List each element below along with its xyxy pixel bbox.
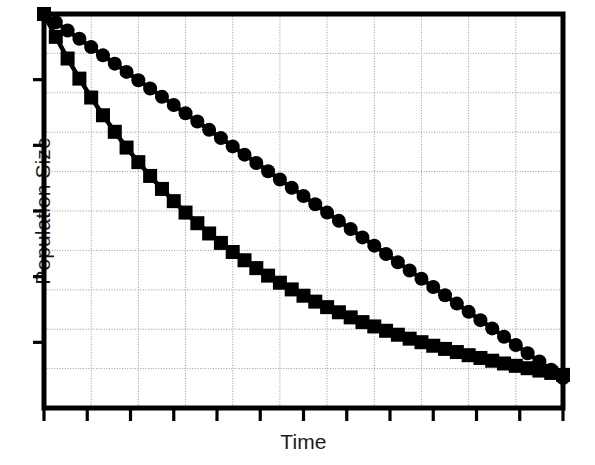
data-point-circle	[509, 338, 523, 352]
data-point-circle	[320, 206, 334, 220]
data-point-circle	[426, 280, 440, 294]
data-point-circle	[273, 172, 287, 186]
data-point-circle	[190, 115, 204, 129]
data-point-circle	[497, 330, 511, 344]
data-point-circle	[379, 247, 393, 261]
data-point-circle	[84, 40, 98, 54]
data-point-circle	[96, 48, 110, 62]
data-point-circle	[438, 288, 452, 302]
data-point-square	[72, 72, 86, 86]
data-point-circle	[521, 346, 535, 360]
data-point-square	[556, 368, 570, 382]
data-point-square	[96, 108, 110, 122]
data-point-circle	[261, 164, 275, 178]
data-point-circle	[414, 272, 428, 286]
data-point-square	[49, 30, 63, 44]
data-point-circle	[249, 156, 263, 170]
data-point-square	[37, 7, 51, 21]
data-point-circle	[131, 73, 145, 87]
chart-figure: Population Size Time	[0, 0, 595, 465]
data-point-circle	[355, 230, 369, 244]
data-point-circle	[462, 305, 476, 319]
data-point-circle	[167, 98, 181, 112]
data-point-circle	[367, 239, 381, 253]
data-point-circle	[473, 313, 487, 327]
data-point-circle	[120, 65, 134, 79]
data-point-circle	[179, 106, 193, 120]
data-point-circle	[450, 297, 464, 311]
data-point-circle	[108, 57, 122, 71]
data-point-circle	[485, 321, 499, 335]
data-point-circle	[72, 32, 86, 46]
data-series-layer	[37, 7, 570, 385]
plot-area	[0, 0, 595, 465]
data-point-square	[131, 155, 145, 169]
data-point-square	[61, 52, 75, 66]
data-point-circle	[155, 90, 169, 104]
data-point-circle	[344, 222, 358, 236]
data-point-square	[84, 91, 98, 105]
data-point-square	[143, 169, 157, 183]
data-point-circle	[391, 255, 405, 269]
data-point-circle	[332, 214, 346, 228]
data-point-circle	[403, 263, 417, 277]
data-point-circle	[238, 148, 252, 162]
data-point-circle	[214, 131, 228, 145]
data-point-circle	[308, 197, 322, 211]
data-point-circle	[285, 181, 299, 195]
data-point-square	[120, 141, 134, 155]
data-point-circle	[202, 123, 216, 137]
data-point-square	[108, 125, 122, 139]
series-circle	[37, 7, 570, 385]
data-point-circle	[297, 189, 311, 203]
data-point-square	[155, 182, 169, 196]
data-point-circle	[226, 139, 240, 153]
data-point-circle	[143, 81, 157, 95]
